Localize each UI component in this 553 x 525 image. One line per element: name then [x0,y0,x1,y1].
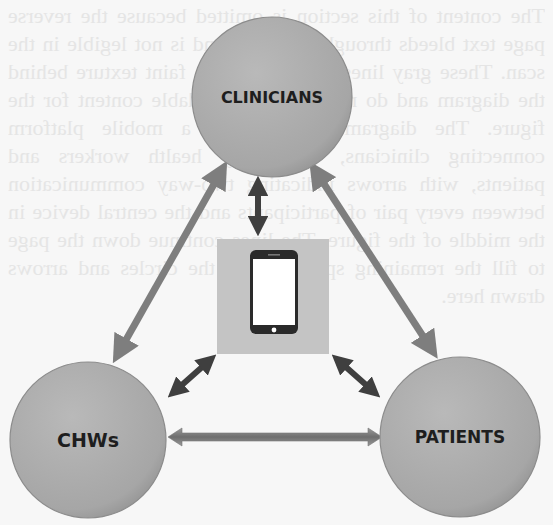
edge-chws-patients [168,428,382,446]
short-double-arrow-icon [338,360,374,392]
node-label-chws: CHWs [57,429,119,451]
edge-hub-patients [338,360,374,392]
short-double-arrow-icon [174,360,210,392]
node-clinicians: CLINICIANS [192,17,352,177]
long-double-arrow-icon [118,170,222,354]
horizontal-double-arrow-icon [168,428,382,446]
node-label-patients: PATIENTS [415,427,505,447]
communication-diagram: CLINICIANS CHWs PATIENTS [0,0,553,525]
edge-clinicians-chws [118,170,222,354]
node-label-clinicians: CLINICIANS [221,88,323,107]
node-chws: CHWs [10,362,166,518]
smartphone-icon [250,250,298,334]
mobile-hub [217,239,329,354]
edge-clinicians-patients [315,170,432,350]
edge-hub-chws [174,360,210,392]
node-patients: PATIENTS [380,357,540,517]
long-double-arrow-icon [315,170,432,350]
